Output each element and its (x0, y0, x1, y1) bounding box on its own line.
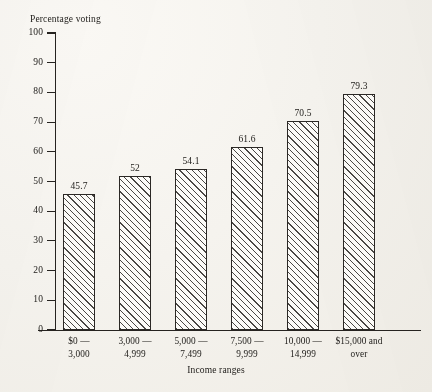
y-axis-tick-label-text: 30 (21, 236, 43, 246)
y-axis-tick (47, 32, 56, 33)
y-axis-tick (47, 270, 56, 271)
y-axis-tick-label-text: 90 (21, 58, 43, 68)
y-axis-tick-label-text: 10 (21, 295, 43, 305)
y-axis-tick-label-text: 60 (21, 147, 43, 157)
y-axis-tick-label-text: 40 (21, 206, 43, 216)
bar-value-label: 52 (109, 163, 161, 173)
y-axis-tick (47, 151, 56, 152)
y-axis-tick-label: 0 (20, 325, 43, 335)
y-axis-tick-label: 70 (20, 117, 43, 127)
y-axis-tick (47, 240, 56, 241)
y-axis-tick-label: 10 (20, 295, 43, 305)
bar (287, 121, 319, 330)
y-axis-tick-label: 50 (20, 177, 43, 187)
x-axis-category-line1: $15,000 and (324, 335, 394, 348)
y-axis-tick-label: 90 (20, 58, 43, 68)
x-axis-line (38, 330, 421, 331)
y-axis-tick-label: 40 (20, 206, 43, 216)
x-axis-title: Income ranges (0, 365, 432, 375)
y-axis-tick-label-text: 0 (21, 325, 43, 335)
y-axis-tick-label-text: 20 (21, 266, 43, 276)
y-axis-title: Percentage voting (30, 14, 101, 24)
y-axis-tick (47, 329, 56, 330)
y-axis-tick-label-text: 80 (21, 87, 43, 97)
plot-area: 45.75254.161.670.579.3 (56, 33, 420, 330)
bar (175, 169, 207, 330)
bar (119, 176, 151, 330)
bar-value-label: 54.1 (165, 156, 217, 166)
y-axis-tick-label: 30 (20, 236, 43, 246)
y-axis-tick-label: 80 (20, 87, 43, 97)
bar (343, 94, 375, 330)
y-axis-tick-label-text: 50 (21, 177, 43, 187)
bar-value-label: 45.7 (53, 181, 105, 191)
y-axis-tick (47, 122, 56, 123)
bar-value-label: 61.6 (221, 134, 273, 144)
y-axis-tick (47, 300, 56, 301)
y-axis-tick (47, 62, 56, 63)
y-axis-tick-label: 60 (20, 147, 43, 157)
y-axis-tick (47, 211, 56, 212)
bar-chart-figure: Percentage voting 0102030405060708090100… (0, 0, 432, 392)
x-axis-category-line2: over (324, 348, 394, 361)
bar (63, 194, 95, 330)
bar (231, 147, 263, 330)
y-axis-tick-label-text: 70 (21, 117, 43, 127)
bar-value-label: 70.5 (277, 108, 329, 118)
bar-value-label: 79.3 (333, 81, 385, 91)
x-axis-category-label: $15,000 andover (324, 335, 394, 360)
y-axis-tick-label: 20 (20, 266, 43, 276)
y-axis-tick-label: 100 (20, 28, 43, 38)
y-axis-tick (47, 92, 56, 93)
y-axis-tick-label-text: 100 (21, 28, 43, 38)
